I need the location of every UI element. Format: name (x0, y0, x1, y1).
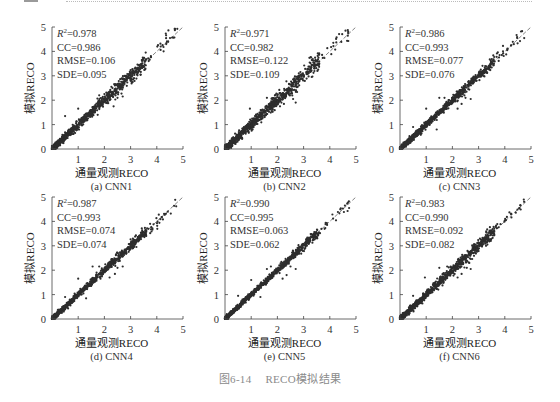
data-point (135, 234, 137, 236)
data-point (270, 265, 272, 267)
y-tick-label: 3 (41, 71, 46, 82)
data-point (477, 239, 479, 241)
x-tick-label: 2 (102, 324, 107, 335)
data-point (418, 300, 420, 302)
data-point (314, 57, 316, 59)
data-point (486, 244, 488, 246)
data-point (463, 266, 465, 268)
data-point (107, 94, 109, 96)
data-point (96, 276, 98, 278)
data-point (488, 65, 490, 67)
data-point (493, 226, 495, 228)
data-point (306, 70, 308, 72)
x-tick-label: 5 (528, 154, 533, 165)
data-point (318, 54, 320, 56)
y-tick-label: 4 (41, 216, 47, 227)
data-point (470, 98, 472, 100)
data-point (235, 308, 237, 310)
data-point (479, 244, 481, 246)
data-point (347, 210, 349, 212)
data-point (134, 242, 136, 244)
data-point (298, 253, 300, 255)
data-point (471, 78, 473, 80)
data-point (116, 258, 118, 260)
data-point (231, 140, 233, 142)
data-point (135, 246, 137, 248)
data-point (102, 271, 104, 273)
data-point (253, 122, 255, 124)
data-point (82, 292, 84, 294)
data-point (259, 283, 261, 285)
data-point (264, 107, 266, 109)
y-axis-title: 模拟RECO (23, 62, 36, 113)
data-point (161, 44, 163, 46)
data-point (131, 246, 133, 248)
stat-cc: CC=0.986 (57, 42, 101, 53)
data-point (260, 115, 262, 117)
data-point (492, 54, 494, 56)
data-point (450, 272, 452, 274)
data-point (72, 129, 74, 131)
data-point (159, 43, 161, 45)
data-point (280, 265, 282, 267)
data-point (165, 37, 167, 39)
data-point (294, 85, 296, 87)
data-point (167, 211, 169, 213)
data-point (416, 300, 418, 302)
data-point (485, 232, 487, 234)
data-point (469, 257, 471, 259)
data-point (520, 208, 522, 210)
data-point (496, 52, 498, 54)
data-point (412, 295, 414, 297)
data-point (56, 314, 58, 316)
data-point (266, 113, 268, 115)
data-point (310, 235, 312, 237)
data-point (122, 255, 124, 257)
data-point (339, 208, 341, 210)
data-point (114, 94, 116, 96)
panel-caption: (b) CNN2 (263, 181, 305, 193)
data-point (510, 216, 512, 218)
data-point (464, 97, 466, 99)
data-point (89, 285, 91, 287)
x-tick-label: 4 (327, 324, 333, 335)
data-point (335, 219, 337, 221)
data-point (78, 126, 80, 128)
data-point (249, 108, 251, 110)
data-point (109, 99, 111, 101)
data-point (428, 290, 430, 292)
panel-caption: (d) CNN4 (90, 351, 133, 363)
x-tick-label: 1 (249, 154, 254, 165)
data-point (470, 250, 472, 252)
data-point (330, 53, 332, 55)
data-point (92, 108, 94, 110)
data-point (99, 276, 101, 278)
data-point (285, 92, 287, 94)
data-point (462, 92, 464, 94)
x-tick-label: 3 (128, 154, 133, 165)
data-point (97, 114, 99, 116)
data-point (72, 299, 74, 301)
data-point (56, 144, 58, 146)
data-point (466, 84, 468, 86)
x-tick-label: 1 (76, 154, 81, 165)
data-point (424, 124, 426, 126)
data-point (287, 260, 289, 262)
data-point (121, 81, 123, 83)
data-point (231, 310, 233, 312)
data-point (490, 61, 492, 63)
data-point (118, 253, 120, 255)
data-point (62, 307, 64, 309)
data-point (90, 109, 92, 111)
data-point (87, 115, 89, 117)
data-point (176, 28, 178, 30)
data-point (306, 78, 308, 80)
data-point (116, 97, 118, 99)
data-point (99, 103, 101, 105)
data-point (316, 237, 318, 239)
data-point (451, 100, 453, 102)
data-point (107, 102, 109, 104)
data-point (309, 61, 311, 63)
y-tick-label: 5 (214, 22, 219, 33)
data-point (291, 94, 293, 96)
